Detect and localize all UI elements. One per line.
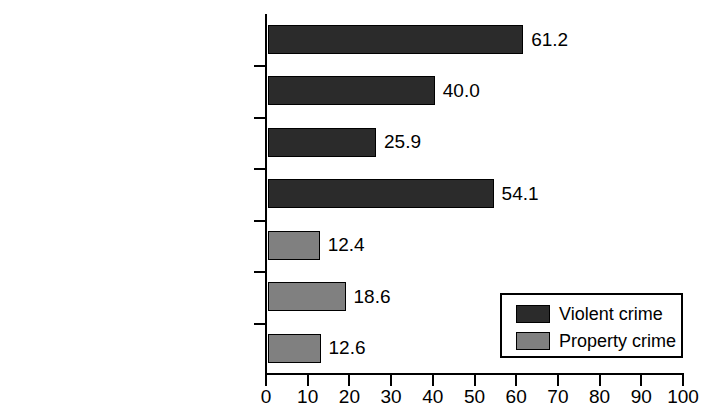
value-axis-tick-label: 50 xyxy=(464,386,485,408)
category-axis-tick xyxy=(254,117,266,119)
legend-swatch-property xyxy=(516,332,550,350)
clipped-title-remnant xyxy=(0,0,702,8)
chart-row: Aggravated assault54.1 xyxy=(266,168,683,219)
bar-property xyxy=(268,282,346,311)
value-axis-tick-label: 70 xyxy=(547,386,568,408)
value-axis-tick-label: 0 xyxy=(261,386,272,408)
legend-item: Violent crime xyxy=(516,302,681,326)
bar-violent xyxy=(268,76,435,105)
value-axis-tick-label: 30 xyxy=(381,386,402,408)
legend-item: Property crime xyxy=(516,329,681,353)
bar-property xyxy=(268,231,320,260)
value-axis-tick-label: 40 xyxy=(422,386,443,408)
value-axis-tick xyxy=(307,375,309,386)
value-axis-tick xyxy=(682,375,684,386)
chart-row: Forcible rape40.0 xyxy=(266,65,683,116)
chart-legend: Violent crimeProperty crime xyxy=(500,293,683,358)
bar-value-label: 25.9 xyxy=(378,128,421,157)
category-axis-tick xyxy=(254,323,266,325)
value-axis-tick xyxy=(390,375,392,386)
bar-value-label: 12.6 xyxy=(323,334,366,363)
bar-property xyxy=(268,334,321,363)
bar-violent xyxy=(268,25,523,54)
category-axis-tick xyxy=(254,65,266,67)
bar-violent xyxy=(268,128,376,157)
bar-value-label: 18.6 xyxy=(348,282,391,311)
value-axis-tick xyxy=(515,375,517,386)
value-axis-tick xyxy=(599,375,601,386)
category-axis-tick xyxy=(254,220,266,222)
category-axis-tick xyxy=(254,168,266,170)
chart-row: Murder and nonnegligent manslaughter61.2 xyxy=(266,14,683,65)
value-axis-tick-label: 10 xyxy=(297,386,318,408)
value-axis-tick-label: 100 xyxy=(667,386,699,408)
bar-value-label: 40.0 xyxy=(437,76,480,105)
legend-swatch-violent xyxy=(516,305,550,323)
bar-violent xyxy=(268,179,494,208)
bar-chart: Murder and nonnegligent manslaughter61.2… xyxy=(0,0,702,414)
value-axis-tick-label: 90 xyxy=(631,386,652,408)
value-axis-tick xyxy=(265,375,267,386)
legend-label: Violent crime xyxy=(559,304,663,325)
value-axis-tick xyxy=(557,375,559,386)
value-axis-tick xyxy=(432,375,434,386)
chart-row: Burglary12.4 xyxy=(266,220,683,271)
value-axis-tick-label: 20 xyxy=(339,386,360,408)
value-axis-tick-label: 60 xyxy=(506,386,527,408)
bar-value-label: 54.1 xyxy=(496,179,539,208)
bar-value-label: 61.2 xyxy=(525,25,568,54)
value-axis-tick-label: 80 xyxy=(589,386,610,408)
value-axis-tick xyxy=(474,375,476,386)
chart-row: Robbery25.9 xyxy=(266,117,683,168)
value-axis-tick xyxy=(348,375,350,386)
legend-label: Property crime xyxy=(559,331,676,352)
category-axis-tick xyxy=(254,271,266,273)
bar-value-label: 12.4 xyxy=(322,231,365,260)
value-axis-tick xyxy=(640,375,642,386)
